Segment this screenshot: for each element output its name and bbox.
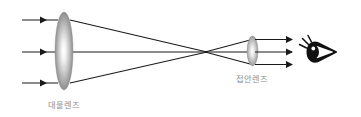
converging-ray-top xyxy=(70,20,207,52)
incoming-rays-group xyxy=(22,17,58,87)
diverging-ray-top xyxy=(205,40,252,53)
eye-lash-3 xyxy=(308,36,312,43)
objective-lens xyxy=(55,12,73,90)
outgoing-rays-group xyxy=(255,36,293,68)
outgoing-ray-top-arrowhead xyxy=(286,36,293,43)
observer-eye-icon xyxy=(300,36,338,63)
converging-ray-bottom xyxy=(70,52,207,83)
converging-rays-group xyxy=(70,20,207,83)
outgoing-ray-middle-arrowhead xyxy=(286,49,293,56)
eyepiece-lens-body xyxy=(247,36,258,66)
eye-lash-2 xyxy=(300,45,307,49)
diverging-ray-bottom xyxy=(205,52,252,65)
diagram-canvas: 대물렌즈 접안렌즈 xyxy=(0,0,361,117)
incoming-ray-middle-arrowhead xyxy=(40,49,47,56)
eye-lash-1 xyxy=(303,39,309,45)
objective-lens-label: 대물렌즈 xyxy=(48,100,81,110)
outgoing-ray-bottom-arrowhead xyxy=(286,61,293,68)
eyepiece-lens xyxy=(247,36,258,66)
eyepiece-lens-label: 접안렌즈 xyxy=(236,74,269,84)
diverging-rays-group xyxy=(205,40,252,65)
incoming-ray-bottom-arrowhead xyxy=(40,80,47,87)
eye-highlight xyxy=(311,47,315,51)
incoming-ray-top-arrowhead xyxy=(40,17,47,24)
optical-ray-diagram: 대물렌즈 접안렌즈 xyxy=(0,0,361,117)
objective-lens-body xyxy=(55,12,73,90)
